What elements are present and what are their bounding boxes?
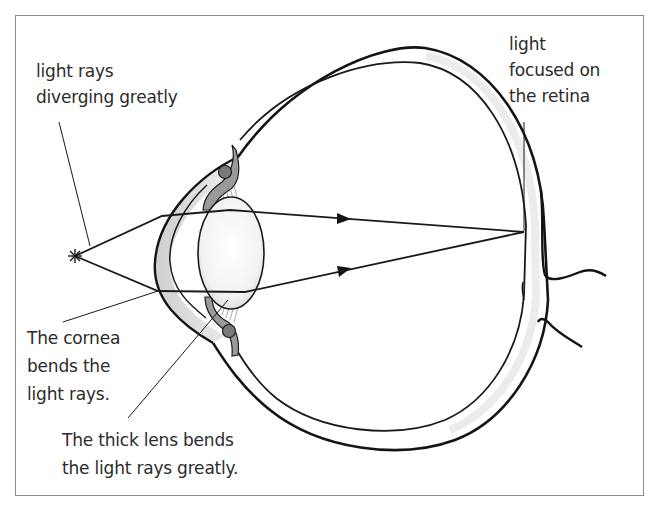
light-rays [75,210,524,292]
lower-ray [75,232,524,292]
label-light-focused-on-retina: light focused on the retina [509,31,600,109]
upper-ray [75,210,524,256]
label-light-rays-diverging: light rays diverging greatly [36,58,178,110]
label-cornea-bends: The cornea bends the light rays. [27,324,120,408]
point-source-star-icon [68,249,82,263]
label-thick-lens-bends: The thick lens bends the light rays grea… [62,426,238,482]
ray-arrow-icon [337,266,351,277]
ray-arrow-icon [337,213,351,224]
leader-lines [59,122,524,418]
